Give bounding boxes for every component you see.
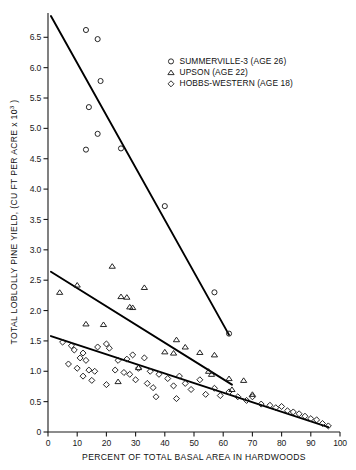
legend-label: UPSON (AGE 22)	[180, 67, 249, 77]
marker-circle	[118, 146, 123, 151]
marker-circle	[83, 27, 88, 32]
marker-diamond	[74, 365, 80, 371]
marker-diamond	[80, 373, 86, 379]
marker-diamond	[89, 377, 95, 383]
marker-diamond	[203, 391, 209, 397]
marker-triangle	[109, 264, 115, 269]
marker-triangle	[115, 379, 121, 384]
x-tick-label: 40	[160, 438, 170, 448]
marker-diamond	[86, 367, 92, 373]
marker-diamond	[121, 369, 127, 375]
y-tick-label: 4.5	[30, 154, 42, 164]
x-tick-label: 20	[102, 438, 112, 448]
chart-figure: 00.51.01.52.02.53.03.54.04.55.05.56.06.5…	[0, 0, 356, 470]
marker-triangle	[226, 376, 232, 381]
marker-diamond	[150, 385, 156, 391]
x-tick-label: 70	[248, 438, 258, 448]
x-tick-label: 100	[333, 438, 347, 448]
marker-triangle	[141, 285, 147, 290]
marker-diamond	[127, 371, 133, 377]
marker-diamond	[153, 394, 159, 400]
marker-triangle	[241, 378, 247, 383]
axis-tick-labels: 00.51.01.52.02.53.03.54.04.55.05.56.06.5…	[30, 32, 348, 448]
y-tick-label: 4.0	[30, 184, 42, 194]
marker-diamond	[165, 376, 171, 382]
marker-triangle	[182, 344, 188, 349]
marker-diamond	[95, 344, 101, 350]
marker-diamond	[65, 361, 71, 367]
y-tick-label: 6.5	[30, 32, 42, 42]
x-tick-label: 10	[73, 438, 83, 448]
marker-circle	[162, 204, 167, 209]
marker-circle	[83, 147, 88, 152]
marker-circle	[95, 131, 100, 136]
marker-triangle	[57, 290, 63, 295]
marker-diamond	[141, 355, 147, 361]
marker-triangle	[118, 294, 124, 299]
marker-diamond	[92, 368, 98, 374]
y-tick-label: 6.0	[30, 63, 42, 73]
marker-circle	[95, 37, 100, 42]
marker-circle	[86, 105, 91, 110]
y-tick-label: 5.0	[30, 123, 42, 133]
marker-diamond	[83, 357, 89, 363]
axis-ticks	[44, 37, 341, 436]
marker-diamond	[217, 393, 223, 399]
y-tick-label: 1.5	[30, 336, 42, 346]
marker-triangle	[197, 350, 203, 355]
marker-triangle	[124, 295, 130, 300]
marker-triangle	[74, 283, 80, 288]
marker-triangle	[173, 337, 179, 342]
y-tick-label: 1.0	[30, 366, 42, 376]
x-tick-label: 0	[46, 438, 51, 448]
x-axis-title: PERCENT OF TOTAL BASAL AREA IN HARDWOODS	[82, 452, 306, 462]
y-tick-label: 0	[36, 427, 41, 437]
x-tick-label: 60	[219, 438, 229, 448]
y-axis-title-label: TOTAL LOBLOLLY PINE YIELD, (CU FT PER AC…	[8, 99, 19, 344]
x-tick-label: 50	[189, 438, 199, 448]
marker-diamond	[112, 367, 118, 373]
marker-diamond	[144, 380, 150, 386]
marker-diamond	[173, 396, 179, 402]
marker-diamond	[171, 383, 177, 389]
legend-marker-circle	[168, 59, 173, 64]
y-tick-label: 0.5	[30, 397, 42, 407]
marker-triangle	[83, 321, 89, 326]
x-tick-label: 80	[277, 438, 287, 448]
marker-diamond	[279, 403, 285, 409]
legend-label: HOBBS-WESTERN (AGE 18)	[180, 78, 294, 88]
marker-diamond	[133, 377, 139, 383]
y-tick-label: 3.0	[30, 245, 42, 255]
marker-circle	[212, 290, 217, 295]
marker-diamond	[188, 386, 194, 392]
marker-diamond	[130, 352, 136, 358]
legend-marker-diamond	[168, 81, 174, 87]
y-axis-title: TOTAL LOBLOLLY PINE YIELD, (CU FT PER AC…	[8, 99, 19, 344]
y-tick-label: 2.0	[30, 306, 42, 316]
marker-triangle	[100, 322, 106, 327]
y-tick-label: 2.5	[30, 275, 42, 285]
marker-diamond	[197, 377, 203, 383]
marker-triangle	[162, 349, 168, 354]
marker-triangle	[211, 352, 217, 357]
x-tick-label: 90	[306, 438, 316, 448]
x-axis-title-label: PERCENT OF TOTAL BASAL AREA IN HARDWOODS	[82, 452, 306, 462]
marker-triangle	[170, 351, 176, 356]
y-tick-label: 3.5	[30, 215, 42, 225]
legend: SUMMERVILLE-3 (AGE 26)UPSON (AGE 22)HOBB…	[168, 56, 293, 88]
marker-circle	[98, 78, 103, 83]
legend-label: SUMMERVILLE-3 (AGE 26)	[180, 56, 287, 66]
legend-marker-triangle	[168, 70, 174, 75]
scatter-plot: 00.51.01.52.02.53.03.54.04.55.05.56.06.5…	[0, 0, 356, 470]
marker-diamond	[103, 382, 109, 388]
y-tick-label: 5.5	[30, 93, 42, 103]
x-tick-label: 30	[131, 438, 141, 448]
